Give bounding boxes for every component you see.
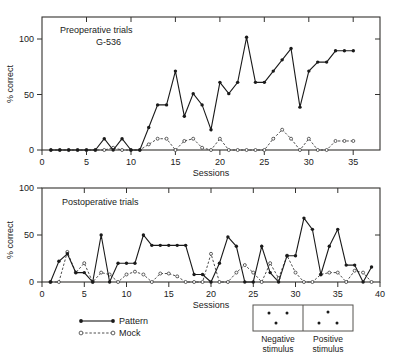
legend-pattern-marker-left bbox=[79, 319, 83, 323]
mock-point bbox=[121, 149, 124, 152]
pattern-point bbox=[76, 148, 79, 151]
preoperative-panel-subtitle: G-536 bbox=[96, 37, 121, 47]
panel-preoperative: 0 50 100 % correct bbox=[5, 17, 380, 178]
pattern-point bbox=[260, 245, 263, 248]
mock-point bbox=[165, 137, 168, 140]
pattern-point bbox=[184, 244, 187, 247]
negative-stimulus-label-line2: stimulus bbox=[262, 344, 293, 354]
mock-point bbox=[307, 137, 310, 140]
preoperative-xticklabel-10: 10 bbox=[126, 157, 136, 167]
pattern-point bbox=[243, 280, 246, 283]
mock-point bbox=[201, 281, 204, 284]
pattern-point bbox=[298, 105, 301, 108]
mock-point bbox=[133, 270, 136, 273]
preoperative-series-pattern bbox=[49, 36, 355, 152]
pattern-point bbox=[94, 148, 97, 151]
legend-mock-marker-right bbox=[111, 331, 115, 335]
preoperative-ylabel: % correct bbox=[5, 65, 15, 104]
positive-stimulus-dot-2 bbox=[318, 322, 321, 325]
pattern-point bbox=[201, 273, 204, 276]
pattern-point bbox=[254, 81, 257, 84]
postoperative-xticklabel-5: 5 bbox=[82, 289, 87, 299]
mock-point bbox=[362, 271, 365, 274]
legend-mock-marker-left bbox=[79, 331, 83, 335]
negative-stimulus-cell: Negative stimulus bbox=[261, 312, 295, 355]
negative-stimulus-dot-3 bbox=[275, 322, 278, 325]
mock-point bbox=[184, 281, 187, 284]
pattern-point bbox=[138, 148, 141, 151]
pattern-point bbox=[133, 262, 136, 265]
pattern-point bbox=[209, 280, 212, 283]
pattern-point bbox=[334, 49, 337, 52]
pattern-point bbox=[49, 280, 52, 283]
preoperative-yticklabel-0: 0 bbox=[29, 145, 34, 155]
pattern-line-preoperative bbox=[51, 37, 353, 150]
mock-point bbox=[353, 269, 356, 272]
legend: Pattern Mock bbox=[79, 316, 148, 338]
mock-point bbox=[117, 281, 120, 284]
pattern-point bbox=[66, 252, 69, 255]
pattern-point bbox=[176, 244, 179, 247]
legend-mock-label: Mock bbox=[119, 328, 141, 338]
mock-point bbox=[235, 271, 238, 274]
legend-entry-pattern[interactable]: Pattern bbox=[79, 316, 148, 326]
mock-point bbox=[193, 281, 196, 284]
mock-point bbox=[174, 149, 177, 152]
negative-stimulus-dot-1 bbox=[268, 312, 271, 315]
pattern-point bbox=[83, 271, 86, 274]
mock-point bbox=[336, 271, 339, 274]
pattern-point bbox=[289, 47, 292, 50]
mock-point bbox=[328, 271, 331, 274]
mock-point bbox=[281, 128, 284, 131]
pattern-point bbox=[120, 137, 123, 140]
pattern-point bbox=[183, 114, 186, 117]
mock-point bbox=[142, 273, 145, 276]
postoperative-ylabel: % correct bbox=[5, 221, 15, 260]
pattern-line-postoperative bbox=[50, 218, 371, 282]
mock-point bbox=[343, 139, 346, 142]
pattern-point bbox=[116, 262, 119, 265]
pattern-point bbox=[167, 244, 170, 247]
mock-point bbox=[147, 143, 150, 146]
pattern-point bbox=[129, 148, 132, 151]
pattern-point bbox=[150, 244, 153, 247]
preoperative-xticklabel-20: 20 bbox=[215, 157, 225, 167]
negative-stimulus-label-line1: Negative bbox=[261, 334, 295, 344]
preoperative-xticklabel-15: 15 bbox=[170, 157, 180, 167]
pattern-point bbox=[49, 148, 52, 151]
pattern-point bbox=[361, 280, 364, 283]
preoperative-xticklabel-0: 0 bbox=[39, 157, 44, 167]
postoperative-xticklabel-20: 20 bbox=[206, 289, 216, 299]
postoperative-xticklabel-0: 0 bbox=[39, 289, 44, 299]
postoperative-xticklabel-15: 15 bbox=[164, 289, 174, 299]
mock-point bbox=[226, 281, 229, 284]
mock-point bbox=[150, 281, 153, 284]
mock-point bbox=[252, 271, 255, 274]
positive-stimulus-label-line1: Positive bbox=[313, 334, 343, 344]
mock-point bbox=[159, 272, 162, 275]
pattern-point bbox=[103, 137, 106, 140]
mock-point bbox=[302, 281, 305, 284]
stimulus-key: Negative stimulus Positive stimulus bbox=[253, 305, 353, 354]
legend-entry-mock[interactable]: Mock bbox=[79, 328, 141, 338]
pattern-point bbox=[192, 92, 195, 95]
positive-stimulus-cell: Positive stimulus bbox=[312, 311, 343, 355]
mock-point bbox=[345, 281, 348, 284]
pattern-point bbox=[245, 36, 248, 39]
figure-container: 0 50 100 % correct bbox=[0, 0, 408, 364]
preoperative-panel-title: Preoperative trials bbox=[60, 25, 133, 35]
mock-point bbox=[370, 281, 373, 284]
pattern-point bbox=[285, 254, 288, 257]
panel-postoperative: 0 50 100 % correct bbox=[5, 183, 385, 310]
mock-point bbox=[325, 149, 328, 152]
preoperative-yticklabel-50: 50 bbox=[24, 90, 34, 100]
mock-point bbox=[210, 149, 213, 152]
pattern-point bbox=[85, 148, 88, 151]
pattern-point bbox=[200, 103, 203, 106]
legend-pattern-marker-right bbox=[111, 319, 115, 323]
mock-point bbox=[263, 149, 266, 152]
postoperative-series-pattern bbox=[49, 216, 373, 283]
pattern-point bbox=[159, 244, 162, 247]
pattern-point bbox=[370, 265, 373, 268]
pattern-point bbox=[74, 271, 77, 274]
